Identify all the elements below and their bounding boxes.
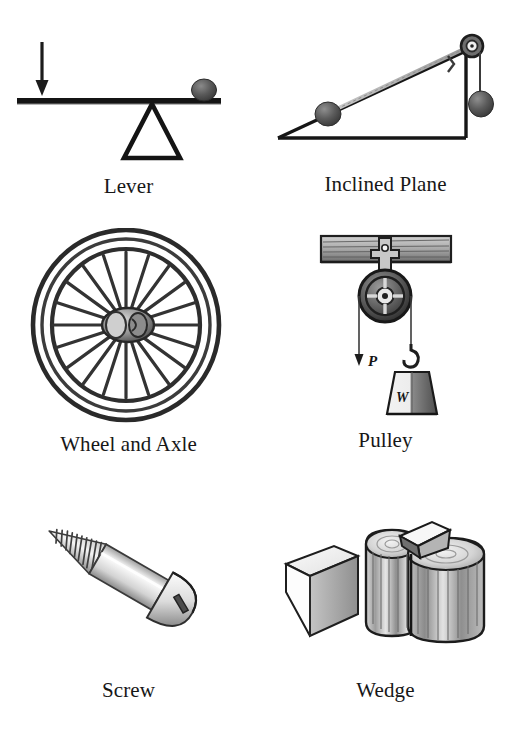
machine-cell-pulley: P W Pulley [257,220,514,488]
rolling-ball [315,102,341,126]
axle [129,313,147,337]
machine-cell-inclined-plane: Inclined Plane [257,0,514,220]
fulcrum-triangle [124,104,180,158]
weight-block [387,372,437,414]
pulley-icon: P W [311,224,461,424]
caption-wedge: Wedge [356,680,414,701]
loose-wedge-prism [286,546,358,636]
caption-lever: Lever [104,176,153,197]
hub [102,308,154,342]
wheel-and-axle-icon [26,228,231,426]
effort-arrow [35,42,48,96]
load-label: W [396,390,410,405]
wedge-icon [278,496,493,666]
hook [403,344,418,367]
effort-arrow [354,354,363,366]
simple-machines-figure: Lever [0,0,514,749]
hanging-weight [468,52,493,117]
inclined-plane-icon [270,30,502,162]
machine-cell-lever: Lever [0,0,257,220]
lever-icon [14,34,244,162]
machine-cell-wedge: Wedge [257,488,514,749]
caption-inclined-plane: Inclined Plane [324,174,446,195]
effort-label: P [368,353,378,369]
machine-cell-wheel-and-axle: Wheel and Axle [0,220,257,488]
caption-wheel-and-axle: Wheel and Axle [60,434,197,455]
sheave-wheel [359,270,411,322]
machine-cell-screw: Screw [0,488,257,749]
caption-screw: Screw [102,680,155,701]
ramp-triangle [278,50,468,138]
load-ball [191,79,216,101]
lever-bar [17,98,221,104]
screw-icon [16,502,241,662]
caption-pulley: Pulley [358,430,412,451]
